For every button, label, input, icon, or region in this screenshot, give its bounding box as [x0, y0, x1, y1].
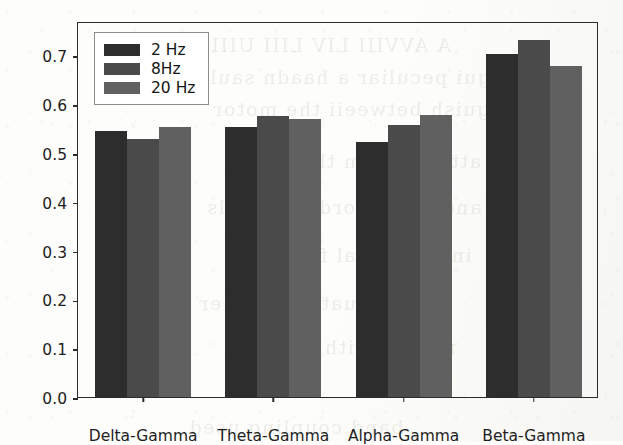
legend-item: 8Hz: [104, 59, 195, 78]
y-tick-mark: [73, 349, 78, 350]
bar: [388, 125, 420, 397]
bar: [550, 66, 582, 397]
y-tick-label: 0.5: [21, 145, 67, 165]
x-tick-mark: [142, 397, 143, 402]
legend-color-swatch: [104, 44, 140, 56]
bar: [289, 119, 321, 397]
x-tick-label: Delta-Gamma: [89, 427, 198, 445]
y-tick-mark: [73, 154, 78, 155]
bar: [420, 115, 452, 397]
y-tick-label: 0.3: [21, 243, 67, 263]
y-tick-mark: [73, 252, 78, 253]
legend-label: 8Hz: [151, 60, 181, 78]
y-tick-label: 0.1: [21, 340, 67, 360]
y-tick-mark: [73, 398, 78, 399]
legend-color-swatch: [104, 82, 140, 94]
legend-item: 2 Hz: [104, 40, 195, 59]
y-tick-mark: [73, 203, 78, 204]
legend-label: 2 Hz: [151, 41, 186, 59]
bar: [486, 54, 518, 397]
bar: [356, 142, 388, 397]
plot-area: 2 Hz8Hz20 Hz 0.00.10.20.30.40.50.60.7Del…: [77, 22, 598, 398]
bar: [225, 127, 257, 397]
y-tick-mark: [73, 56, 78, 57]
x-tick-label: Beta-Gamma: [482, 427, 585, 445]
x-tick-label: Theta-Gamma: [217, 427, 329, 445]
x-tick-label: Alpha-Gamma: [348, 427, 459, 445]
bar: [95, 131, 127, 397]
y-tick-mark: [73, 105, 78, 106]
y-tick-label: 0.4: [21, 194, 67, 214]
legend-color-swatch: [104, 63, 140, 75]
bar: [127, 139, 159, 397]
legend-label: 20 Hz: [151, 79, 195, 97]
y-tick-label: 0.6: [21, 96, 67, 116]
x-tick-mark: [273, 397, 274, 402]
y-tick-label: 0.0: [21, 389, 67, 409]
bar: [257, 116, 289, 397]
y-tick-label: 0.7: [21, 47, 67, 67]
x-tick-mark: [533, 397, 534, 402]
bar: [159, 127, 191, 397]
legend-item: 20 Hz: [104, 78, 195, 97]
y-tick-label: 0.2: [21, 291, 67, 311]
y-tick-mark: [73, 301, 78, 302]
x-tick-mark: [403, 397, 404, 402]
chart-legend: 2 Hz8Hz20 Hz: [94, 32, 209, 105]
bar: [518, 40, 550, 397]
